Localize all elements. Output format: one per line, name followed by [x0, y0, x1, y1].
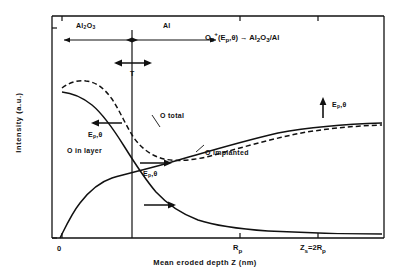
label-energy-left: Ep,θ [88, 131, 103, 139]
y-axis-label: Intensity (a.u.) [14, 75, 23, 171]
label-o-in-layer: O in layer [67, 147, 102, 154]
label-energy-up: Ep,θ [332, 101, 347, 109]
thickness-label: T [130, 70, 135, 77]
xtick-zs: Zs=2Rp [300, 243, 326, 254]
up-energy-arrow [320, 97, 327, 118]
xtick-rp: Rp [233, 243, 242, 254]
xtick-0: 0 [57, 244, 61, 253]
region-label-oxide: Al2O3 [76, 22, 96, 30]
x-axis-label: Mean eroded depth Z (nm) [60, 258, 350, 267]
curve-o-in-layer [62, 92, 382, 234]
thickness-arrow [114, 60, 152, 67]
label-energy-right: Ep,θ [143, 170, 158, 178]
curve-o-implanted [60, 123, 382, 238]
lower-right-arrow [144, 202, 176, 209]
label-o-total: O total [160, 112, 184, 119]
reaction-equation: O2+(Ep,θ) → Al2O3/Al [205, 30, 279, 43]
plot-svg [0, 0, 406, 277]
region-span-arrows [64, 37, 216, 42]
figure-container: Al2O3 Al T O2+(Ep,θ) → Al2O3/Al O total … [0, 0, 406, 277]
region-label-metal: Al [163, 22, 171, 29]
leader-lines [152, 115, 204, 152]
leader-o-total [152, 115, 160, 127]
tick-marks [52, 16, 318, 238]
leader-o-implanted [196, 145, 204, 152]
label-o-implanted: O implanted [205, 149, 249, 156]
right-energy-arrow [140, 160, 172, 167]
